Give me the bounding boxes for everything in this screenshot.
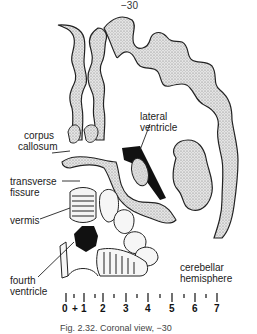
section-label: −30 xyxy=(121,0,138,11)
label-corpus-callosum: corpus callosum xyxy=(18,130,54,152)
vermis-folia xyxy=(70,188,96,223)
label-fourth-ventricle: fourth ventricle xyxy=(10,275,47,297)
scale-tick-2: 2 xyxy=(100,303,106,314)
scale-tick-6: 6 xyxy=(192,303,198,314)
label-vermis: vermis xyxy=(10,215,39,226)
scale-tick-7: 7 xyxy=(214,303,220,314)
medial-cortex xyxy=(58,25,107,140)
label-transverse-fissure: transverse fissure xyxy=(10,176,57,198)
scale-bar xyxy=(66,293,217,302)
figure-caption: Fig. 2.32. Coronal view, −30 xyxy=(60,323,172,333)
label-cerebellar-hemisphere: cerebellar hemisphere xyxy=(180,262,232,284)
label-lateral-ventricle: lateral ventricle xyxy=(140,111,177,133)
fourth-ventricle-shape xyxy=(74,226,98,252)
scale-tick-1: 1 xyxy=(81,303,87,314)
scale-tick-4: 4 xyxy=(145,303,151,314)
scale-tick-3: 3 xyxy=(123,303,129,314)
scale-tick-0: 0 xyxy=(62,303,68,314)
scale-tick-plus: + xyxy=(72,303,78,314)
scale-tick-5: 5 xyxy=(169,303,175,314)
